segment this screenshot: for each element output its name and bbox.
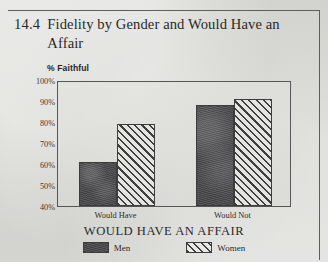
legend-label: Women: [217, 243, 245, 253]
y-axis-ticks: 100%90%80%70%60%50%40%: [21, 76, 55, 212]
y-axis-tick-label: 90%: [40, 98, 55, 107]
y-axis-tick-label: 60%: [40, 161, 55, 170]
x-axis-category-label: Would Have: [95, 211, 137, 220]
bar-would-have-men: [79, 162, 117, 206]
legend-swatch-women-icon: [186, 242, 212, 253]
chart-legend: MenWomen: [0, 242, 328, 253]
plot-area: [57, 81, 291, 207]
legend-swatch-men-icon: [83, 242, 109, 253]
x-axis-category-label: Would Not: [214, 211, 251, 220]
bar-would-have-women: [117, 124, 155, 206]
y-axis-label: % Faithful: [47, 63, 89, 73]
y-axis-tick-label: 100%: [36, 77, 55, 86]
x-axis-title: WOULD HAVE AN AFFAIR: [0, 224, 328, 239]
bar-would-not-men: [196, 105, 234, 206]
legend-label: Men: [114, 243, 131, 253]
bar-chart: % Faithful 100%90%80%70%60%50%40% Would …: [0, 0, 328, 262]
legend-item-women: Women: [186, 242, 245, 253]
y-axis-tick-label: 40%: [40, 203, 55, 212]
y-axis-tick-label: 50%: [40, 182, 55, 191]
legend-item-men: Men: [83, 242, 131, 253]
y-axis-tick-label: 70%: [40, 140, 55, 149]
y-axis-tick-label: 80%: [40, 119, 55, 128]
bar-would-not-women: [234, 99, 272, 206]
